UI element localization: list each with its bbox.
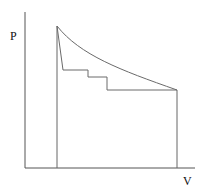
stepwise-process	[57, 26, 177, 90]
pv-diagram	[0, 0, 207, 194]
x-axis-label: V	[183, 174, 192, 189]
y-axis-label: P	[10, 29, 17, 44]
expansion-curve	[57, 26, 177, 90]
